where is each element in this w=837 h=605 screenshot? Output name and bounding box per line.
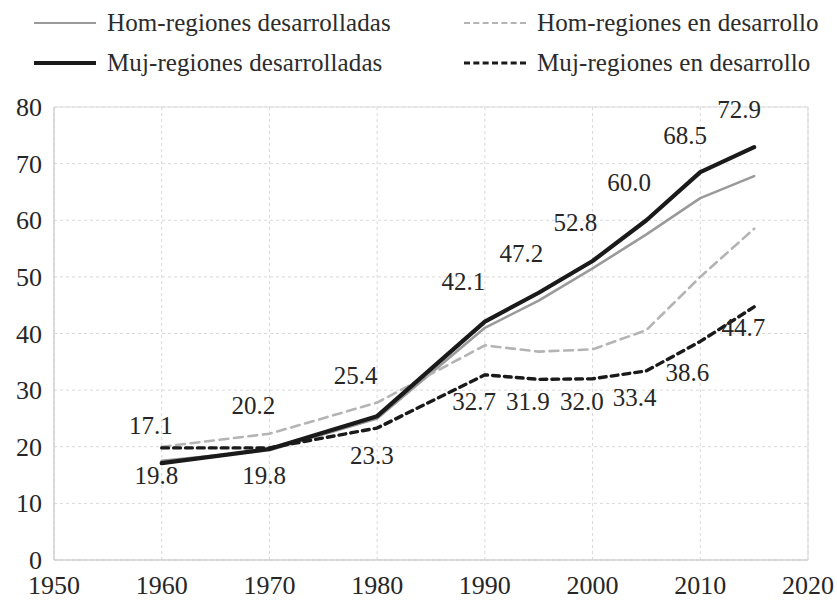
legend-label-hom-desarrolladas: Hom-regiones desarrolladas <box>107 9 391 37</box>
legend-item-hom-desarrolladas[interactable]: Hom-regiones desarrolladas <box>34 8 391 38</box>
legend-label-hom-en-desarrollo: Hom-regiones en desarrollo <box>537 9 819 37</box>
y-tick-label: 30 <box>16 376 42 405</box>
data-point-label: 32.7 <box>452 388 496 415</box>
data-point-label: 47.2 <box>500 240 544 267</box>
legend-swatch-dash-dark-icon <box>464 57 526 69</box>
line-chart-svg: 01020304050607080 1950196019701980199020… <box>0 92 837 605</box>
legend-label-muj-en-desarrollo: Muj-regiones en desarrollo <box>537 49 810 77</box>
data-point-label: 38.6 <box>665 359 709 386</box>
data-point-label: 60.0 <box>607 169 651 196</box>
data-point-label: 72.9 <box>717 96 761 123</box>
legend-swatch-solid-thick-icon <box>34 57 96 69</box>
x-tick-label: 2020 <box>782 571 834 600</box>
x-tick-label: 1950 <box>28 571 80 600</box>
data-point-label: 19.8 <box>242 462 286 489</box>
y-tick-label: 80 <box>16 93 42 122</box>
y-tick-label: 70 <box>16 150 42 179</box>
data-point-label: 25.4 <box>334 362 378 389</box>
data-point-labels: 17.119.820.219.825.423.342.132.747.231.9… <box>129 96 765 489</box>
x-tick-label: 1990 <box>459 571 511 600</box>
data-point-label: 32.0 <box>560 388 604 415</box>
x-tick-label: 2010 <box>674 571 726 600</box>
x-axis-tick-labels: 19501960197019801990200020102020 <box>28 571 834 600</box>
x-tick-label: 1980 <box>351 571 403 600</box>
legend-item-muj-desarrolladas[interactable]: Muj-regiones desarrolladas <box>34 48 382 78</box>
data-point-label: 19.8 <box>134 462 178 489</box>
x-tick-label: 1960 <box>136 571 188 600</box>
y-tick-label: 40 <box>16 320 42 349</box>
data-point-label: 17.1 <box>129 412 173 439</box>
data-point-label: 33.4 <box>613 384 657 411</box>
legend-swatch-solid-thin-icon <box>34 17 96 29</box>
plot-area-wrapper: 01020304050607080 1950196019701980199020… <box>0 92 837 605</box>
data-point-label: 44.7 <box>721 314 765 341</box>
legend-item-muj-en-desarrollo[interactable]: Muj-regiones en desarrollo <box>464 48 810 78</box>
y-tick-label: 60 <box>16 206 42 235</box>
data-point-label: 42.1 <box>441 268 485 295</box>
data-point-label: 52.8 <box>553 209 597 236</box>
legend-item-hom-en-desarrollo[interactable]: Hom-regiones en desarrollo <box>464 8 819 38</box>
data-point-label: 23.3 <box>350 442 394 469</box>
x-tick-label: 2000 <box>567 571 619 600</box>
y-tick-label: 10 <box>16 489 42 518</box>
legend-label-muj-desarrolladas: Muj-regiones desarrolladas <box>107 49 382 77</box>
chart-legend: Hom-regiones desarrolladas Hom-regiones … <box>0 0 837 92</box>
y-tick-label: 50 <box>16 263 42 292</box>
y-tick-label: 20 <box>16 433 42 462</box>
data-point-label: 68.5 <box>663 122 707 149</box>
chart-container: Hom-regiones desarrolladas Hom-regiones … <box>0 0 837 605</box>
data-point-label: 20.2 <box>231 392 275 419</box>
data-point-label: 31.9 <box>506 388 550 415</box>
legend-swatch-dash-light-icon <box>464 17 526 29</box>
x-tick-label: 1970 <box>243 571 295 600</box>
y-axis-tick-labels: 01020304050607080 <box>16 93 42 575</box>
